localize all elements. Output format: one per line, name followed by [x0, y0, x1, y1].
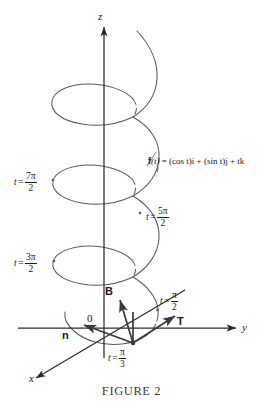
- param-fraction-2: 3π 2: [25, 253, 37, 274]
- formula-plus-1: +: [197, 156, 202, 166]
- y-axis-label: y: [242, 322, 247, 333]
- param-denominator-3: 2: [171, 302, 178, 312]
- param-eq-4: =: [112, 354, 117, 364]
- marker-t-3pi-2: [53, 260, 56, 263]
- param-label-t-pi-3: t = π 3: [108, 348, 126, 369]
- helix-diagram: [0, 0, 263, 409]
- origin-label: 0: [87, 313, 93, 324]
- helix-curve: [52, 31, 159, 344]
- param-denominator-2: 2: [27, 264, 34, 274]
- param-eq-1: =: [150, 213, 155, 223]
- param-lead-4: t: [108, 354, 111, 364]
- vector-function-formula: f(t) = (cos t)i + (sin t)j + tk: [148, 157, 244, 166]
- helix-loop-3-right: [132, 260, 136, 277]
- marker-t-pi-2: [156, 309, 159, 312]
- tangent-vector-label: T: [177, 316, 184, 327]
- helix-loop-3-front: [53, 246, 133, 285]
- param-fraction-1: 5π 2: [157, 207, 169, 228]
- formula-term-k: tk: [237, 156, 244, 166]
- param-numerator-2: 3π: [25, 253, 37, 264]
- param-lead-1: t: [146, 213, 149, 223]
- param-denominator-1: 2: [159, 218, 166, 228]
- marker-t-7pi-2-dot: [52, 179, 55, 182]
- formula-term-j: (sin t)j: [204, 156, 228, 166]
- normal-vector-label: n: [62, 330, 69, 341]
- binormal-vector-label: B: [105, 286, 113, 297]
- marker-t-5pi-2: [139, 212, 142, 215]
- helix-loop-2-front: [53, 165, 133, 204]
- param-numerator-4: π: [119, 348, 126, 359]
- param-lead-3: t: [160, 297, 163, 307]
- helix-segment-front-top: [133, 31, 157, 117]
- param-numerator-1: 5π: [157, 207, 169, 218]
- tangent-vector: [133, 316, 175, 343]
- param-eq-3: =: [164, 297, 169, 307]
- x-axis-label: x: [29, 373, 34, 384]
- param-numerator-3: π: [171, 291, 178, 302]
- z-axis-label: z: [98, 11, 102, 22]
- param-label-t-7pi-2: t = 7π 2: [14, 172, 37, 193]
- param-fraction-4: π 3: [119, 348, 126, 369]
- formula-equals: =: [162, 156, 167, 166]
- helix-loop-1-right: [133, 99, 136, 117]
- param-label-t-5pi-2: t = 5π 2: [146, 207, 169, 228]
- helix-segment-bottom-right: [133, 277, 158, 316]
- param-denominator-0: 2: [27, 183, 34, 193]
- param-fraction-0: 7π 2: [25, 172, 37, 193]
- helix-loop-2-right: [132, 179, 136, 196]
- figure-caption: FIGURE 2: [0, 384, 263, 399]
- formula-term-i: (cos t)i: [169, 156, 194, 166]
- formula-argument: (t): [151, 156, 160, 166]
- param-label-t-3pi-2: t = 3π 2: [14, 253, 37, 274]
- param-denominator-4: 3: [119, 359, 126, 369]
- param-lead-2: t: [14, 259, 17, 269]
- param-label-t-pi-2: t = π 2: [160, 291, 178, 312]
- param-eq-0: =: [18, 178, 23, 188]
- param-lead-0: t: [14, 178, 17, 188]
- formula-plus-2: +: [230, 156, 235, 166]
- param-numerator-0: 7π: [25, 172, 37, 183]
- param-fraction-3: π 2: [171, 291, 178, 312]
- param-eq-2: =: [18, 259, 23, 269]
- helix-loop-1-front: [52, 84, 133, 125]
- figure-container: z y x 0 B T n t = 7π 2 t = 5π 2 t = 3π 2…: [0, 0, 263, 409]
